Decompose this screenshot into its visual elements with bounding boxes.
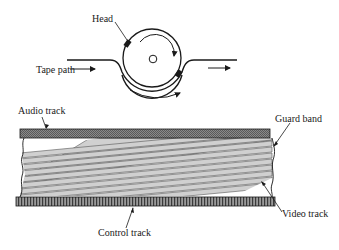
audio-track <box>20 129 270 138</box>
audio-track-label: Audio track <box>18 106 66 116</box>
guard-band-label: Guard band <box>275 114 322 124</box>
video-track-label: Video track <box>282 209 328 219</box>
tape-layout <box>15 117 290 228</box>
helical-scan-diagram: Head Tape path Audio track Guard band Vi… <box>0 0 339 250</box>
head-label: Head <box>92 14 113 24</box>
spindle <box>149 55 157 63</box>
control-track <box>16 197 275 206</box>
drum-assembly <box>67 22 237 98</box>
tape-path-label: Tape path <box>36 65 75 75</box>
control-track-label: Control track <box>98 228 151 238</box>
